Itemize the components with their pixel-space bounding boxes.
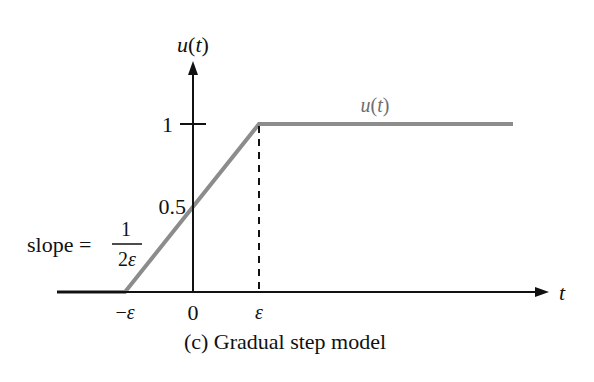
slope-numerator: 1 [121, 218, 131, 240]
gradual-step-diagram: u(t) u(t) 1 0.5 slope = 1 2ε −ε 0 ε t (c… [0, 0, 594, 382]
y-axis-arrow-icon [188, 61, 198, 75]
x-tick-label-epsilon: ε [255, 301, 263, 323]
y-axis-label: u(t) [177, 32, 209, 57]
x-tick-label-neg-epsilon: −ε [115, 301, 134, 323]
curve-label: u(t) [361, 94, 390, 117]
x-axis-arrow-icon [535, 287, 549, 297]
slope-prefix: slope = [27, 232, 91, 257]
y-tick-label-1: 1 [162, 112, 173, 137]
x-axis-label: t [559, 280, 566, 305]
figure-caption: (c) Gradual step model [184, 329, 386, 354]
slope-denominator: 2ε [118, 248, 136, 270]
x-tick-label-0: 0 [188, 300, 199, 325]
y-tick-label-0-5: 0.5 [159, 194, 187, 219]
